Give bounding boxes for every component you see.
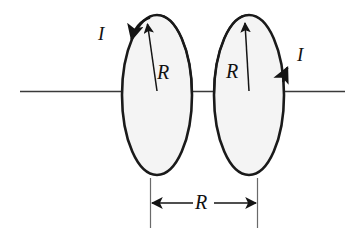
diagram-canvas <box>0 0 359 236</box>
right-current-direction-arrow <box>283 68 287 83</box>
radius-label-right: R <box>226 61 238 81</box>
physics-diagram-helmholtz-coils: I I R R R <box>0 0 359 236</box>
current-label-right: I <box>297 45 303 64</box>
radius-label-left: R <box>157 62 169 82</box>
right-current-loop <box>214 15 284 175</box>
current-label-left: I <box>98 24 104 43</box>
separation-label: R <box>195 192 207 212</box>
